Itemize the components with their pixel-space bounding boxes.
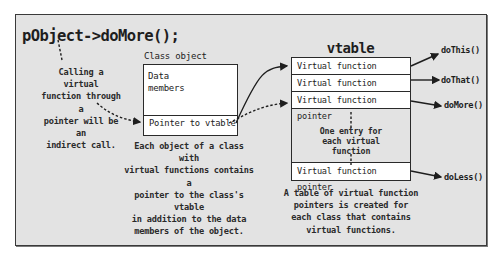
arrows-layer [0, 0, 500, 259]
arrow-domore [411, 101, 441, 106]
pointer-to-vtable-arrow [236, 66, 287, 123]
call-to-pointer-arrow [97, 103, 140, 122]
dashed-arrows [58, 40, 351, 165]
call-dashed-line [58, 40, 62, 60]
arrow-dothis [411, 54, 438, 66]
solid-arrows [236, 54, 441, 177]
arrow-doless [411, 171, 441, 177]
